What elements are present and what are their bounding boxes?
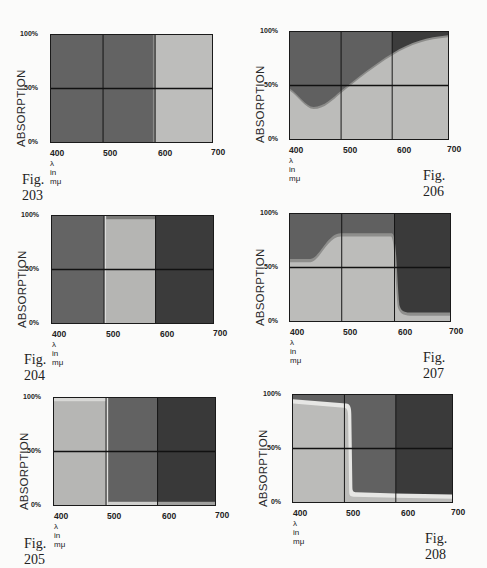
- ytick-100: 100%: [11, 393, 41, 400]
- figure-caption: Fig. 204: [24, 352, 46, 384]
- plot-area-206: [289, 31, 449, 140]
- xtick-400: 400: [54, 511, 68, 521]
- plot-area-208: [292, 394, 453, 503]
- xtick-500: 500: [106, 329, 120, 339]
- xtick-700: 700: [213, 328, 227, 338]
- ytick-100: 100%: [248, 209, 278, 216]
- plot-area-203: [50, 34, 213, 143]
- x-axis-label: λ in mμ: [50, 159, 61, 186]
- ytick-100: 100%: [251, 390, 281, 397]
- xtick-700: 700: [447, 144, 461, 154]
- x-axis-label: λ in mμ: [54, 522, 65, 549]
- xtick-700: 700: [451, 507, 465, 517]
- xtick-600: 600: [158, 148, 172, 158]
- xtick-600: 600: [160, 329, 174, 339]
- x-axis-label: λ in mμ: [289, 156, 300, 183]
- x-axis-label: λ in mμ: [52, 340, 63, 367]
- chart-208-svg: [293, 395, 452, 502]
- plot-area-204: [51, 215, 214, 324]
- ytick-100: 100%: [248, 27, 278, 34]
- chart-204-svg: [52, 216, 213, 323]
- y-axis-label: ABSORPTION: [16, 251, 28, 328]
- y-axis-label: ABSORPTION: [257, 430, 269, 507]
- chart-206-svg: [290, 32, 448, 139]
- chart-205-svg: [54, 398, 215, 505]
- chart-207-svg: [290, 214, 450, 321]
- xtick-600: 600: [398, 327, 412, 337]
- xtick-600: 600: [397, 145, 411, 155]
- figure-caption: Fig. 207: [423, 350, 445, 382]
- figure-caption: Fig. 203: [22, 172, 44, 204]
- xtick-500: 500: [346, 508, 360, 518]
- xtick-700: 700: [215, 510, 229, 520]
- xtick-600: 600: [401, 508, 415, 518]
- xtick-700: 700: [211, 147, 225, 157]
- y-axis-label: ABSORPTION: [15, 70, 27, 147]
- figure-caption: Fig. 206: [423, 168, 445, 200]
- plot-area-207: [289, 213, 451, 322]
- xtick-500: 500: [343, 145, 357, 155]
- xtick-500: 500: [103, 148, 117, 158]
- xtick-400: 400: [52, 329, 66, 339]
- chart-203-svg: [51, 35, 212, 142]
- xtick-400: 400: [50, 148, 64, 158]
- y-axis-label: ABSORPTION: [254, 66, 266, 143]
- figure-caption: Fig. 205: [24, 536, 46, 568]
- xtick-400: 400: [289, 145, 303, 155]
- x-axis-label: λ in mμ: [290, 338, 301, 365]
- y-axis-label: ABSORPTION: [18, 433, 30, 510]
- xtick-400: 400: [293, 508, 307, 518]
- xtick-700: 700: [449, 326, 463, 336]
- x-axis-label: λ in mμ: [293, 519, 304, 546]
- xtick-500: 500: [343, 327, 357, 337]
- xtick-500: 500: [107, 511, 121, 521]
- figure-caption: Fig. 208: [425, 531, 447, 563]
- y-axis-label: ABSORPTION: [254, 249, 266, 326]
- xtick-600: 600: [162, 511, 176, 521]
- plot-area-205: [53, 397, 216, 506]
- ytick-100: 100%: [9, 211, 39, 218]
- xtick-400: 400: [290, 327, 304, 337]
- ytick-100: 100%: [8, 30, 38, 37]
